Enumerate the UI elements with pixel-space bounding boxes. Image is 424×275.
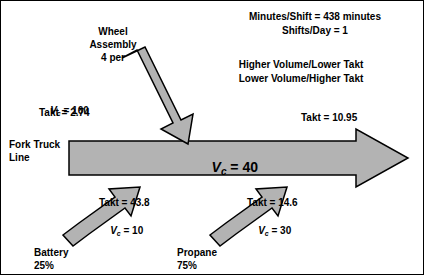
fork-truck-line-label-line1: Fork Truck bbox=[9, 139, 60, 151]
propane-vc-value: = 30 bbox=[269, 225, 292, 236]
wheel-assembly-label-line1: Wheel bbox=[71, 26, 155, 38]
main-vc-subscript: c bbox=[221, 166, 227, 177]
lower-volume-note: Lower Volume/Higher Takt bbox=[201, 73, 401, 85]
battery-label-line2: 25% bbox=[34, 260, 54, 272]
right-takt-stat: Takt = 10.95 bbox=[301, 112, 357, 124]
battery-vc-subscript: c bbox=[117, 230, 121, 237]
left-takt-stat: Takt = 2.74 bbox=[39, 107, 90, 119]
propane-label-line2: 75% bbox=[177, 260, 197, 272]
main-vc-value: = 40 bbox=[226, 159, 258, 175]
propane-vc-symbol: V bbox=[258, 225, 265, 236]
battery-vc-value: = 10 bbox=[121, 225, 144, 236]
diagram-canvas: Minutes/Shift = 438 minutes Shifts/Day =… bbox=[0, 0, 424, 275]
minutes-per-shift-label: Minutes/Shift = 438 minutes bbox=[215, 11, 415, 23]
fork-truck-line-label-line2: Line bbox=[9, 152, 30, 164]
battery-takt-stat: Takt = 43.8 bbox=[99, 197, 150, 209]
main-arrow-vc-label: Vc = 40 bbox=[196, 149, 258, 187]
arrows-layer bbox=[1, 1, 424, 275]
propane-label-line1: Propane bbox=[177, 247, 217, 259]
battery-vc-stat: Vc = 10 bbox=[99, 213, 143, 250]
propane-vc-stat: Vc = 30 bbox=[247, 213, 291, 250]
shifts-per-day-label: Shifts/Day = 1 bbox=[215, 25, 415, 37]
battery-vc-symbol: V bbox=[110, 225, 117, 236]
propane-vc-subscript: c bbox=[265, 230, 269, 237]
main-vc-symbol: V bbox=[212, 159, 221, 175]
battery-label-line1: Battery bbox=[34, 247, 68, 259]
wheel-assembly-label-line3: 4 per bbox=[71, 52, 155, 64]
wheel-assembly-label-line2: Assembly bbox=[71, 39, 155, 51]
higher-volume-note: Higher Volume/Lower Takt bbox=[201, 59, 401, 71]
propane-takt-stat: Takt = 14.6 bbox=[247, 197, 298, 209]
